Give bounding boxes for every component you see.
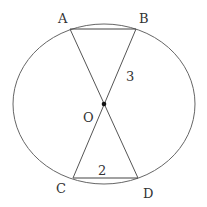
label-d: D <box>143 186 153 201</box>
label-b: B <box>139 11 149 26</box>
label-c: C <box>56 181 66 196</box>
label-o: O <box>83 110 94 125</box>
label-a: A <box>57 11 68 26</box>
point-o <box>102 102 107 107</box>
length-ob: 3 <box>126 69 134 84</box>
geometry-diagram: A B C D O 3 2 <box>0 0 207 207</box>
length-cd: 2 <box>98 163 106 178</box>
